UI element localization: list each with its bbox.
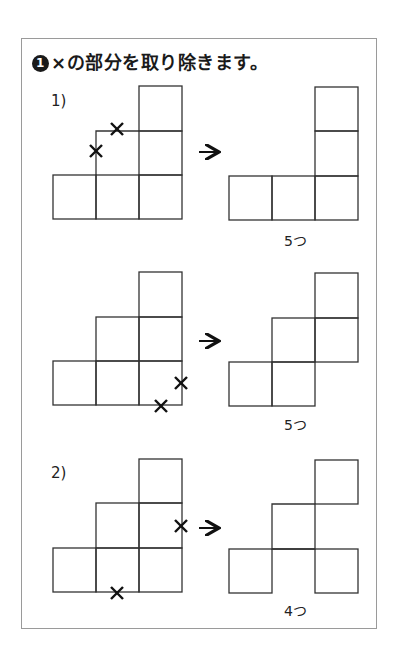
square [315,176,358,220]
figures-canvas [0,0,395,655]
square [229,176,272,220]
square [315,131,358,176]
square [139,272,182,317]
square [272,176,315,220]
square [96,503,139,548]
square [53,175,96,219]
cross-mark [111,587,123,599]
figure-1a-before [53,86,182,219]
x-marks-2 [111,520,187,599]
cross-mark [175,520,187,532]
removable-edges [96,131,139,175]
square [53,548,96,592]
figure-2-before [53,459,182,592]
square [315,318,358,362]
square [315,549,358,593]
square [139,548,182,592]
square [315,273,358,318]
square [96,175,139,219]
square [96,548,139,592]
figure-2-after [229,460,358,593]
square [139,361,182,405]
figure-1a-after [229,87,358,220]
square [139,175,182,219]
cross-mark [111,123,123,135]
cross-mark [155,400,167,412]
square [139,86,182,131]
square [272,362,315,406]
x-marks-1a [90,123,123,157]
square [139,459,182,503]
square [315,87,358,131]
square [272,504,315,549]
figure-1b-after [229,273,358,406]
square [229,549,272,593]
cross-mark [175,377,187,389]
square [229,362,272,406]
square [139,503,182,548]
square [272,318,315,362]
square [96,317,139,361]
figure-1b-before [53,272,182,405]
square [315,460,358,504]
square [139,131,182,175]
square [53,361,96,405]
square [139,317,182,361]
square [96,361,139,405]
